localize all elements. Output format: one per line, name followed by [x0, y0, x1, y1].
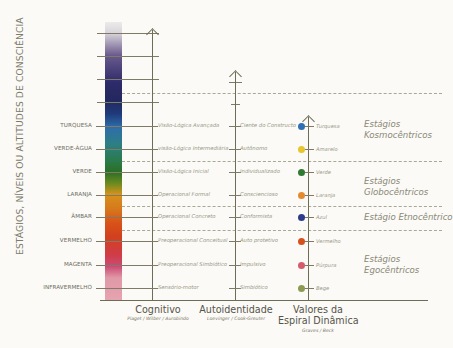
identity-stage: Impulsivo — [240, 261, 266, 267]
dashed-separator — [122, 206, 442, 207]
level-line — [96, 217, 158, 218]
spiral-value: Vermelho — [316, 238, 341, 244]
spiral-tick — [305, 241, 314, 242]
spiral-value: Turquesa — [316, 123, 340, 129]
identity-arrow-icon — [229, 70, 242, 83]
identity-stage: Simbiótico — [240, 284, 268, 290]
column-source-identity: Loevinger / Cook-Greuter — [196, 316, 276, 321]
level-label: ÂMBAR — [71, 213, 92, 219]
spiral-value: Bege — [316, 285, 329, 291]
cognitive-stage: Visão-Lógica Inicial — [158, 168, 209, 174]
spiral-color-dot — [298, 285, 305, 292]
stage-label: Estágios — [364, 119, 400, 130]
spiral-value: Verde — [316, 169, 331, 175]
level-label: VERDE — [72, 168, 92, 174]
spiral-color-dot — [298, 214, 305, 221]
cognitive-stage: Preoperacional Simbiótico — [158, 261, 227, 267]
spiral-color-dot — [298, 123, 305, 130]
spiral-color-dot — [298, 238, 305, 245]
spiral-color-dot — [298, 262, 305, 269]
level-label: VERDE-ÁGUA — [54, 145, 92, 151]
level-line — [96, 265, 158, 266]
level-line — [96, 241, 158, 242]
column-title-spiral: Valores da — [278, 304, 358, 315]
spiral-value: Azul — [316, 214, 327, 220]
column-title-spiral-line2: Espiral Dinâmica — [278, 315, 358, 326]
stage-label: Estágios — [364, 254, 400, 265]
stage-label: Estágio Etnocêntrico — [364, 212, 453, 223]
level-line — [96, 288, 158, 289]
upper-level-line — [97, 56, 159, 57]
level-line — [96, 126, 158, 127]
spiral-tick — [305, 126, 314, 127]
identity-stage: Individualizado — [240, 168, 280, 174]
spiral-color-dot — [298, 192, 305, 199]
level-label: MAGENTA — [64, 261, 92, 267]
identity-stage: Ciente do Constructo — [240, 122, 296, 128]
level-line — [96, 149, 158, 150]
baseline — [100, 300, 428, 301]
dashed-separator — [122, 230, 442, 231]
identity-stage: Consciencioso — [240, 191, 278, 197]
spiral-tick — [305, 195, 314, 196]
spiral-tick — [305, 217, 314, 218]
spiral-color-dot — [298, 169, 305, 176]
stage-label: Kosmocêntricos — [364, 130, 432, 141]
spiral-color-dot — [298, 146, 305, 153]
cognitive-stage: Operacional Concreto — [158, 213, 216, 219]
column-source-spiral: Graves / Beck — [278, 328, 358, 333]
spiral-value: Amarelo — [316, 146, 338, 152]
dashed-separator — [122, 93, 442, 94]
cognitive-axis — [152, 30, 153, 300]
level-label: TURQUESA — [60, 122, 92, 128]
y-axis-title: ESTÁGIOS, NÍVEIS OU ALTITUDES DE CONSCIÊ… — [14, 17, 25, 255]
spiral-tick — [305, 172, 314, 173]
spiral-tick — [305, 265, 314, 266]
level-label: LARANJA — [67, 191, 92, 197]
cognitive-stage: Preoperacional Conceitual — [158, 237, 227, 243]
consciousness-color-spectrum-bar — [105, 22, 122, 300]
upper-level-line — [97, 79, 159, 80]
stage-label: Globocêntricos — [364, 187, 428, 198]
identity-stage: Auto protetivo — [240, 237, 278, 243]
cognitive-stage: Visão-Lógica Avançada — [158, 122, 219, 128]
stage-label: Egocêntricos — [364, 265, 419, 276]
spiral-axis — [308, 117, 309, 300]
upper-level-line — [97, 102, 159, 103]
spiral-tick — [305, 288, 314, 289]
spiral-value: Púrpura — [316, 262, 336, 268]
identity-stage: Autônomo — [240, 145, 267, 151]
level-label: INFRAVERMELHO — [43, 284, 92, 290]
column-title-identity: Autoidentidade — [196, 304, 276, 315]
cognitive-stage: Sensório-motor — [158, 284, 199, 290]
level-label: VERMELHO — [60, 237, 92, 243]
cognitive-arrow-icon — [146, 28, 159, 41]
identity-stage: Conformista — [240, 213, 272, 219]
spiral-tick — [305, 149, 314, 150]
cognitive-stage: Operacional Formal — [158, 191, 210, 197]
dashed-separator — [122, 161, 442, 162]
cognitive-stage: visão-Lógica Intermediária — [158, 145, 228, 151]
level-line — [96, 172, 158, 173]
column-title-cognitive: Cognitivo — [128, 304, 188, 315]
column-source-cognitive: Piaget / Wilber / Aurobindo — [118, 316, 198, 321]
level-line — [96, 195, 158, 196]
stage-label: Estágios — [364, 176, 400, 187]
spiral-value: Laranja — [316, 192, 335, 198]
